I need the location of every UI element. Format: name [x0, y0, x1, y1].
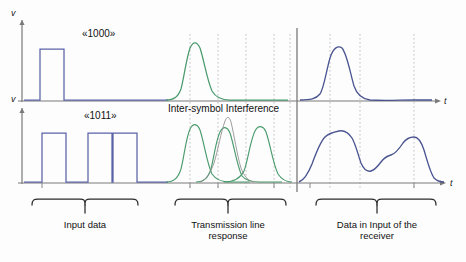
caption-data-in-input-of-receiver: Data in Input of the receiver [327, 219, 427, 241]
brace-input-data [32, 199, 138, 213]
brace-data-in-input-of-receiver [316, 199, 436, 213]
line-response-single-pulse [166, 43, 288, 100]
line-response-overlapping-pulses [166, 117, 292, 182]
v-axis-label-top: v [11, 8, 16, 18]
bit-label-1000: «1000» [82, 28, 115, 39]
bit-label-1011: «1011» [84, 110, 117, 121]
caption-transmission-line-response: Transmission line response [186, 219, 270, 241]
caption-receiver-line1: Data in Input of the [327, 219, 427, 230]
isi-diagram: v v t t «1000» «1011» Inter-symbol Inter… [0, 0, 466, 262]
receiver-waveform-single-pulse [300, 47, 432, 101]
caption-receiver-line2: receiver [327, 230, 427, 241]
symbol-tick-marks [42, 183, 414, 188]
brace-transmission-line-response [175, 199, 286, 213]
caption-transmission-line2: response [186, 230, 270, 241]
t-axis-label-top: t [444, 96, 447, 106]
caption-input-data-line1: Input data [45, 219, 125, 230]
caption-input-data: Input data [45, 219, 125, 230]
isi-annotation-label: Inter-symbol Interference [168, 103, 279, 114]
t-axis-label-bottom: t [450, 178, 453, 188]
v-axis-label-bottom: v [11, 94, 16, 104]
bottom-row-axes [18, 108, 446, 186]
receiver-waveform-multi-hump [299, 131, 444, 182]
input-waveform-1011 [24, 133, 168, 182]
input-waveform-1000 [24, 49, 168, 100]
caption-transmission-line1: Transmission line [186, 219, 270, 230]
